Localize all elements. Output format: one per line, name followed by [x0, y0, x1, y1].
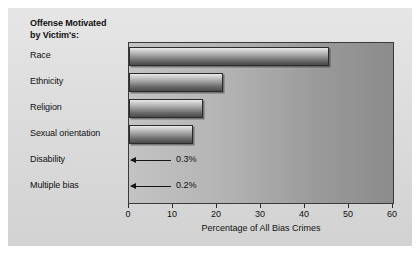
callout-arrow-icon: [131, 160, 171, 161]
x-axis-tick-label: 0: [125, 209, 130, 219]
callout-value: 0.3%: [176, 154, 197, 164]
bar: [129, 99, 203, 118]
x-axis-tick-label: 40: [299, 209, 309, 219]
x-axis-tick: [128, 204, 129, 208]
x-axis-tick: [216, 204, 217, 208]
x-axis-title: Percentage of All Bias Crimes: [128, 223, 394, 233]
chart-figure: Offense Motivated by Victim's: RaceEthni…: [8, 8, 412, 246]
chart-header: Offense Motivated by Victim's:: [30, 18, 138, 41]
callout-value: 0.2%: [176, 180, 197, 190]
category-label: Religion: [30, 102, 62, 112]
x-axis-tick-label: 50: [343, 209, 353, 219]
category-label: Disability: [30, 154, 65, 164]
plot-area: 0.3%0.2%: [128, 42, 394, 204]
chart-header-line-2: by Victim's:: [30, 30, 138, 42]
category-label: Multiple bias: [30, 180, 79, 190]
bar: [129, 73, 223, 92]
category-label: Race: [30, 50, 51, 60]
x-axis-tick-label: 30: [255, 209, 265, 219]
bar: [129, 125, 193, 144]
chart-header-line-1: Offense Motivated: [30, 18, 138, 30]
x-axis-tick-label: 60: [387, 209, 397, 219]
callout-arrow-icon: [131, 186, 171, 187]
x-axis-tick: [260, 204, 261, 208]
category-label: Sexual orientation: [30, 128, 100, 138]
x-axis: 0102030405060: [128, 204, 394, 222]
x-axis-tick: [348, 204, 349, 208]
category-label: Ethnicity: [30, 76, 63, 86]
x-axis-tick-label: 10: [167, 209, 177, 219]
x-axis-tick: [304, 204, 305, 208]
x-axis-tick: [172, 204, 173, 208]
x-axis-tick-label: 20: [211, 209, 221, 219]
bar: [129, 47, 329, 66]
x-axis-tick: [392, 204, 393, 208]
